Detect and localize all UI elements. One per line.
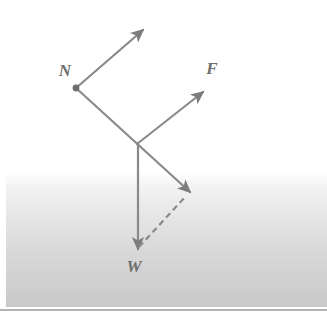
vertex-dot [73, 85, 80, 92]
ground-surface-shading [6, 172, 327, 307]
force-diagram-canvas: N F W [0, 0, 327, 318]
friction-force-vector [137, 92, 203, 144]
label-friction-force: F [205, 59, 218, 78]
label-normal-force: N [58, 61, 72, 80]
label-weight-force: W [126, 257, 143, 276]
normal-force-vector [76, 30, 143, 88]
force-diagram-svg: N F W [0, 0, 327, 318]
